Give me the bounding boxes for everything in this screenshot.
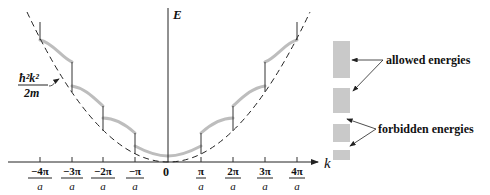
- allowed-energies-label: allowed energies: [386, 53, 471, 67]
- allowed-band-1: [333, 150, 350, 160]
- allowed-band-3: [333, 88, 350, 113]
- tick-den: a: [294, 180, 300, 192]
- tick-num: π: [198, 165, 204, 177]
- leader-arrow: [49, 79, 59, 86]
- forbidden-energies-label: forbidden energies: [378, 122, 474, 136]
- tick-den: a: [198, 180, 204, 192]
- tick-den: a: [230, 180, 236, 192]
- allowed-band-2: [333, 124, 350, 142]
- tick-num: −4π: [31, 165, 49, 177]
- origin-label: 0: [163, 165, 169, 179]
- tick-num: 3π: [259, 165, 271, 177]
- tick-num: 2π: [227, 165, 239, 177]
- tick-num: −2π: [94, 165, 112, 177]
- tick-den: a: [69, 180, 75, 192]
- free-electron-numerator: ħ²k²: [19, 71, 39, 85]
- free-electron-denominator: 2m: [23, 86, 39, 100]
- tick-den: a: [37, 180, 43, 192]
- band-diagram: E k 0 −4π a −3π a −2π a −π a π a 2π a 3π…: [0, 0, 490, 195]
- free-electron-label: ħ²k² 2m: [18, 71, 59, 100]
- tick-den: a: [262, 180, 268, 192]
- tick-num: −3π: [63, 165, 81, 177]
- tick-num: 4π: [291, 165, 303, 177]
- tick-den: a: [100, 180, 106, 192]
- energy-band-blocks: [333, 41, 350, 160]
- allowed-band-4: [333, 41, 350, 78]
- k-axis-label: k: [324, 155, 331, 171]
- tick-den: a: [132, 180, 138, 192]
- tick-num: −π: [129, 165, 141, 177]
- e-axis-label: E: [172, 7, 182, 22]
